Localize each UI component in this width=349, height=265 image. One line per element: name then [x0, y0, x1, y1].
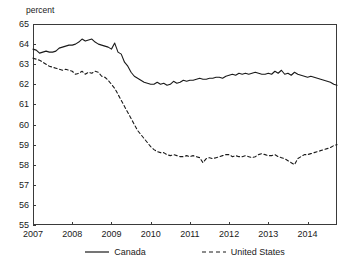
x-tick-label: 2011: [180, 229, 199, 239]
chart-legend: Canada United States: [33, 245, 337, 259]
series-line-canada: [33, 39, 337, 85]
y-tick-label: 56: [19, 200, 29, 210]
y-tick-label: 59: [19, 140, 29, 150]
x-tick-label: 2010: [141, 229, 161, 239]
x-tick-label: 2012: [219, 229, 239, 239]
solid-line-icon: [85, 248, 109, 256]
y-tick-label: 65: [19, 19, 29, 29]
chart-title-clipped: [0, 0, 349, 2]
x-tick-label: 2009: [101, 229, 121, 239]
y-axis-label: percent: [26, 5, 54, 15]
legend-label-united-states: United States: [231, 247, 285, 257]
legend-item-canada: Canada: [85, 247, 146, 257]
y-tick-label: 63: [19, 59, 29, 69]
legend-label-canada: Canada: [114, 247, 146, 257]
y-tick-label: 58: [19, 160, 29, 170]
plot-area: 6564636261605958575655 20072008200920102…: [33, 24, 337, 225]
y-tick-label: 57: [19, 180, 29, 190]
x-tick-label: 2014: [298, 229, 318, 239]
x-tick-label: 2007: [23, 229, 43, 239]
x-tick-label: 2008: [62, 229, 82, 239]
y-tick-label: 61: [19, 99, 29, 109]
y-tick-label: 60: [19, 120, 29, 130]
dashed-line-icon: [202, 248, 226, 256]
y-tick-mark: [33, 225, 36, 226]
series-lines: [33, 24, 337, 225]
x-tick-label: 2013: [258, 229, 278, 239]
legend-item-united-states: United States: [202, 247, 285, 257]
y-tick-label: 64: [19, 39, 29, 49]
chart-figure: percent 6564636261605958575655 200720082…: [0, 0, 349, 265]
y-tick-label: 62: [19, 79, 29, 89]
series-line-united-states: [33, 58, 337, 165]
